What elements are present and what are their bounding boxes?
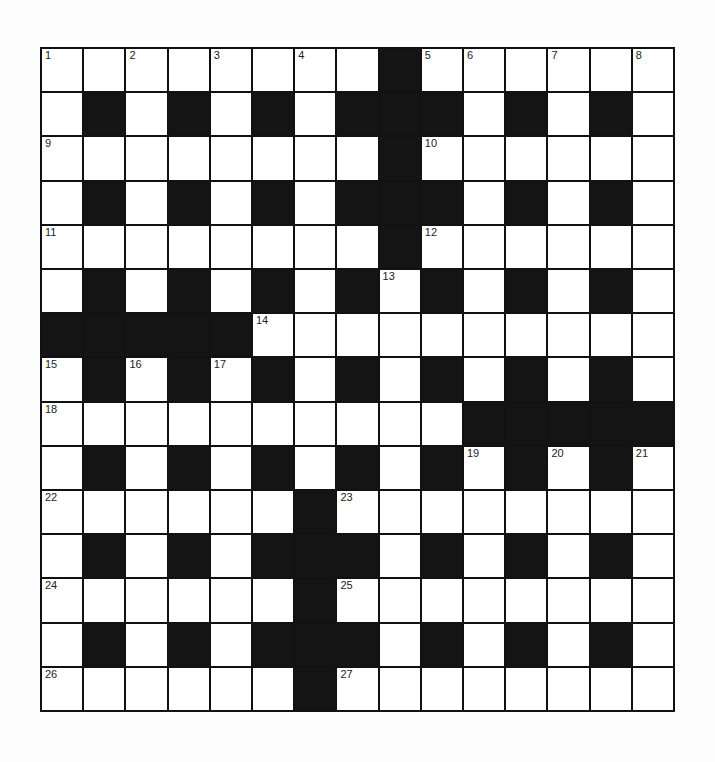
answer-square[interactable] — [337, 403, 377, 445]
answer-square[interactable] — [422, 579, 462, 621]
answer-square[interactable] — [126, 579, 166, 621]
answer-square[interactable] — [591, 668, 631, 710]
answer-square[interactable] — [548, 579, 588, 621]
answer-square[interactable] — [548, 270, 588, 312]
answer-square[interactable] — [126, 491, 166, 533]
answer-square[interactable]: 8 — [633, 49, 673, 91]
answer-square[interactable] — [633, 93, 673, 135]
answer-square[interactable] — [548, 624, 588, 666]
answer-square[interactable] — [464, 226, 504, 268]
answer-square[interactable] — [211, 226, 251, 268]
answer-square[interactable] — [211, 182, 251, 224]
answer-square[interactable] — [506, 491, 546, 533]
answer-square[interactable] — [506, 137, 546, 179]
answer-square[interactable] — [211, 624, 251, 666]
answer-square[interactable] — [84, 579, 124, 621]
answer-square[interactable] — [211, 447, 251, 489]
answer-square[interactable] — [337, 226, 377, 268]
answer-square[interactable]: 13 — [380, 270, 420, 312]
answer-square[interactable] — [464, 579, 504, 621]
answer-square[interactable]: 11 — [42, 226, 82, 268]
answer-square[interactable] — [295, 447, 335, 489]
answer-square[interactable] — [548, 93, 588, 135]
answer-square[interactable] — [506, 314, 546, 356]
answer-square[interactable] — [633, 491, 673, 533]
answer-square[interactable] — [380, 579, 420, 621]
answer-square[interactable]: 9 — [42, 137, 82, 179]
answer-square[interactable] — [464, 668, 504, 710]
answer-square[interactable] — [380, 358, 420, 400]
answer-square[interactable] — [42, 535, 82, 577]
answer-square[interactable] — [42, 624, 82, 666]
answer-square[interactable] — [295, 270, 335, 312]
answer-square[interactable]: 2 — [126, 49, 166, 91]
answer-square[interactable] — [253, 668, 293, 710]
answer-square[interactable] — [295, 226, 335, 268]
answer-square[interactable] — [506, 49, 546, 91]
answer-square[interactable] — [380, 668, 420, 710]
answer-square[interactable] — [464, 93, 504, 135]
answer-square[interactable] — [548, 137, 588, 179]
answer-square[interactable] — [422, 491, 462, 533]
answer-square[interactable] — [591, 137, 631, 179]
answer-square[interactable] — [633, 668, 673, 710]
answer-square[interactable] — [464, 358, 504, 400]
answer-square[interactable] — [126, 270, 166, 312]
answer-square[interactable] — [126, 624, 166, 666]
answer-square[interactable] — [42, 182, 82, 224]
answer-square[interactable] — [253, 137, 293, 179]
answer-square[interactable] — [295, 182, 335, 224]
answer-square[interactable] — [169, 226, 209, 268]
answer-square[interactable] — [464, 535, 504, 577]
answer-square[interactable] — [380, 624, 420, 666]
answer-square[interactable] — [211, 93, 251, 135]
answer-square[interactable] — [633, 270, 673, 312]
answer-square[interactable]: 23 — [337, 491, 377, 533]
answer-square[interactable] — [126, 137, 166, 179]
answer-square[interactable] — [464, 182, 504, 224]
answer-square[interactable] — [126, 93, 166, 135]
answer-square[interactable]: 3 — [211, 49, 251, 91]
answer-square[interactable]: 5 — [422, 49, 462, 91]
answer-square[interactable] — [633, 314, 673, 356]
answer-square[interactable]: 10 — [422, 137, 462, 179]
answer-square[interactable] — [548, 226, 588, 268]
answer-square[interactable]: 24 — [42, 579, 82, 621]
answer-square[interactable] — [169, 579, 209, 621]
answer-square[interactable] — [211, 137, 251, 179]
answer-square[interactable] — [169, 491, 209, 533]
answer-square[interactable]: 4 — [295, 49, 335, 91]
answer-square[interactable] — [126, 535, 166, 577]
answer-square[interactable] — [548, 182, 588, 224]
answer-square[interactable] — [84, 491, 124, 533]
answer-square[interactable] — [633, 535, 673, 577]
answer-square[interactable] — [211, 579, 251, 621]
answer-square[interactable] — [253, 49, 293, 91]
answer-square[interactable] — [380, 314, 420, 356]
answer-square[interactable] — [506, 579, 546, 621]
answer-square[interactable] — [295, 358, 335, 400]
answer-square[interactable] — [422, 668, 462, 710]
answer-square[interactable] — [253, 579, 293, 621]
answer-square[interactable] — [126, 403, 166, 445]
answer-square[interactable] — [84, 403, 124, 445]
answer-square[interactable] — [84, 668, 124, 710]
answer-square[interactable] — [169, 403, 209, 445]
answer-square[interactable]: 7 — [548, 49, 588, 91]
answer-square[interactable] — [548, 314, 588, 356]
answer-square[interactable] — [380, 535, 420, 577]
answer-square[interactable]: 18 — [42, 403, 82, 445]
answer-square[interactable] — [548, 535, 588, 577]
answer-square[interactable] — [295, 137, 335, 179]
answer-square[interactable]: 25 — [337, 579, 377, 621]
answer-square[interactable] — [591, 579, 631, 621]
answer-square[interactable] — [84, 137, 124, 179]
answer-square[interactable] — [591, 314, 631, 356]
answer-square[interactable] — [506, 226, 546, 268]
answer-square[interactable] — [506, 668, 546, 710]
answer-square[interactable] — [211, 270, 251, 312]
answer-square[interactable] — [633, 579, 673, 621]
answer-square[interactable] — [253, 226, 293, 268]
answer-square[interactable]: 27 — [337, 668, 377, 710]
answer-square[interactable] — [295, 93, 335, 135]
